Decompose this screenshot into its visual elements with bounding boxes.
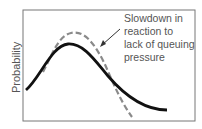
y-axis-label: Probability <box>9 49 23 77</box>
annotation-line: pressure <box>124 51 195 64</box>
annotation-line: reaction to <box>124 25 195 38</box>
annotation-text: Slowdown in reaction to lack of queuing … <box>124 12 195 64</box>
annotation-arrow <box>100 29 120 47</box>
dashed-curve <box>43 33 132 117</box>
annotation-line: lack of queuing <box>124 38 195 51</box>
annotation-line: Slowdown in <box>124 12 195 25</box>
